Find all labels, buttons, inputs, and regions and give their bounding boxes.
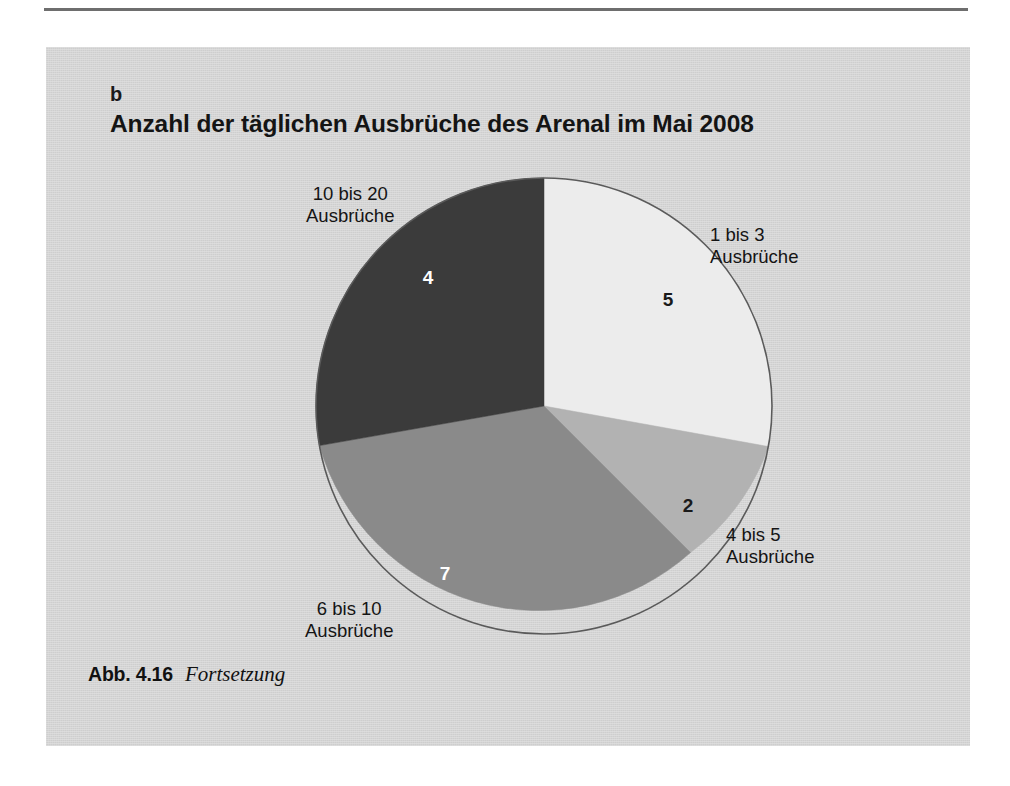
pie-slice-1-bis-3[interactable]	[544, 178, 772, 447]
pie-label-1-bis-3-line2: Ausbrüche	[710, 246, 798, 268]
page-root: b Anzahl der täglichen Ausbrüche des Are…	[0, 0, 1010, 786]
pie-value-6-bis-10: 7	[440, 563, 451, 584]
pie-label-10-bis-20: 10 bis 20 Ausbrüche	[306, 183, 394, 227]
pie-label-4-bis-5-line2: Ausbrüche	[726, 546, 814, 568]
pie-value-10-bis-20: 4	[423, 267, 434, 288]
figure-caption-number: Abb. 4.16	[88, 663, 173, 685]
pie-label-10-bis-20-line1: 10 bis 20	[306, 183, 394, 205]
figure-caption-text: Fortsetzung	[185, 662, 285, 686]
pie-label-1-bis-3-line1: 1 bis 3	[710, 224, 798, 246]
pie-label-4-bis-5: 4 bis 5 Ausbrüche	[726, 524, 814, 568]
pie-label-10-bis-20-line2: Ausbrüche	[306, 205, 394, 227]
panel-letter-label: b	[110, 83, 122, 106]
pie-label-4-bis-5-line1: 4 bis 5	[726, 524, 814, 546]
pie-label-6-bis-10-line2: Ausbrüche	[305, 620, 393, 642]
pie-label-6-bis-10-line1: 6 bis 10	[305, 598, 393, 620]
pie-label-1-bis-3: 1 bis 3 Ausbrüche	[710, 224, 798, 268]
pie-value-1-bis-3: 5	[663, 289, 674, 310]
pie-value-4-bis-5: 2	[683, 495, 694, 516]
chart-title: Anzahl der täglichen Ausbrüche des Arena…	[110, 110, 754, 138]
pie-label-6-bis-10: 6 bis 10 Ausbrüche	[305, 598, 393, 642]
figure-caption: Abb. 4.16Fortsetzung	[88, 662, 285, 687]
header-divider	[44, 8, 968, 11]
